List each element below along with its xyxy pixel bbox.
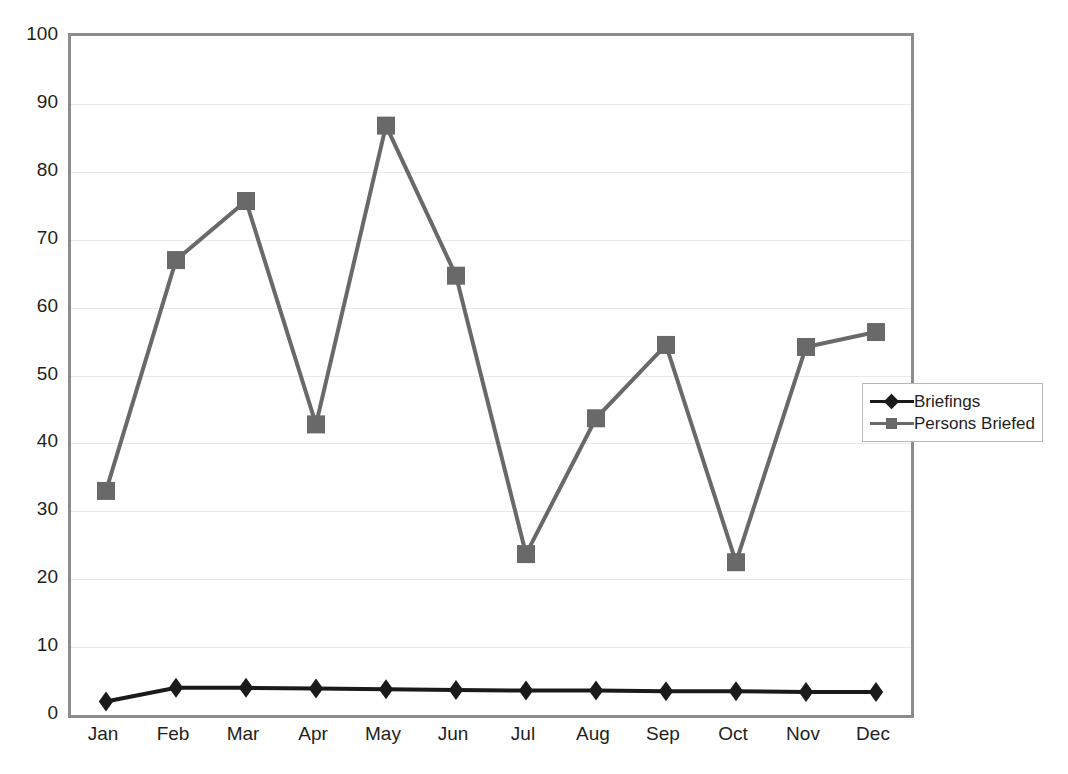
data-point-marker xyxy=(97,482,115,500)
data-point-marker xyxy=(237,192,255,210)
plot-area xyxy=(68,33,914,718)
data-point-marker xyxy=(659,681,673,701)
data-point-marker xyxy=(239,678,253,698)
y-tick-label: 20 xyxy=(0,567,58,586)
line-chart: 0102030405060708090100 JanFebMarAprMayJu… xyxy=(0,0,1068,774)
data-point-marker xyxy=(447,267,465,285)
data-point-marker xyxy=(729,681,743,701)
data-point-marker xyxy=(169,678,183,698)
legend-diamond-icon xyxy=(870,392,914,410)
y-tick-label: 50 xyxy=(0,363,58,382)
series-briefings xyxy=(99,678,883,712)
x-tick-label: Jun xyxy=(438,724,469,743)
y-tick-label: 0 xyxy=(0,703,58,722)
series-line xyxy=(106,688,876,702)
x-tick-label: Jan xyxy=(88,724,119,743)
data-point-marker xyxy=(167,251,185,269)
x-tick-label: Dec xyxy=(856,724,890,743)
y-tick-label: 10 xyxy=(0,635,58,654)
data-point-marker xyxy=(377,117,395,135)
y-tick-label: 100 xyxy=(0,24,58,43)
data-point-marker xyxy=(869,682,883,702)
legend-square-icon xyxy=(870,414,914,432)
y-tick-label: 60 xyxy=(0,295,58,314)
data-point-marker xyxy=(517,545,535,563)
series-line xyxy=(106,126,876,563)
y-axis: 0102030405060708090100 xyxy=(0,33,58,712)
legend-item: Briefings xyxy=(870,390,1035,412)
series-layer xyxy=(71,36,911,715)
x-tick-label: Apr xyxy=(298,724,328,743)
data-point-marker xyxy=(449,680,463,700)
data-point-marker xyxy=(589,681,603,701)
y-tick-label: 30 xyxy=(0,499,58,518)
y-tick-label: 70 xyxy=(0,227,58,246)
data-point-marker xyxy=(797,338,815,356)
x-tick-label: Aug xyxy=(576,724,610,743)
data-point-marker xyxy=(657,336,675,354)
x-tick-label: Nov xyxy=(786,724,820,743)
x-axis: JanFebMarAprMayJunJulAugSepOctNovDec xyxy=(68,724,908,754)
y-tick-label: 80 xyxy=(0,159,58,178)
x-tick-label: May xyxy=(365,724,401,743)
data-point-marker xyxy=(587,409,605,427)
data-point-marker xyxy=(379,679,393,699)
y-tick-label: 40 xyxy=(0,431,58,450)
y-tick-label: 90 xyxy=(0,91,58,110)
legend-item: Persons Briefed xyxy=(870,412,1035,434)
x-tick-label: Sep xyxy=(646,724,680,743)
x-tick-label: Mar xyxy=(227,724,260,743)
data-point-marker xyxy=(99,691,113,711)
data-point-marker xyxy=(309,679,323,699)
data-point-marker xyxy=(867,323,885,341)
chart-legend: BriefingsPersons Briefed xyxy=(862,383,1043,442)
data-point-marker xyxy=(307,415,325,433)
x-tick-label: Oct xyxy=(718,724,748,743)
data-point-marker xyxy=(519,681,533,701)
series-persons-briefed xyxy=(97,117,885,572)
data-point-marker xyxy=(727,553,745,571)
legend-item-label: Persons Briefed xyxy=(914,415,1035,432)
x-tick-label: Jul xyxy=(511,724,535,743)
data-point-marker xyxy=(799,682,813,702)
legend-item-label: Briefings xyxy=(914,393,980,410)
x-tick-label: Feb xyxy=(157,724,190,743)
